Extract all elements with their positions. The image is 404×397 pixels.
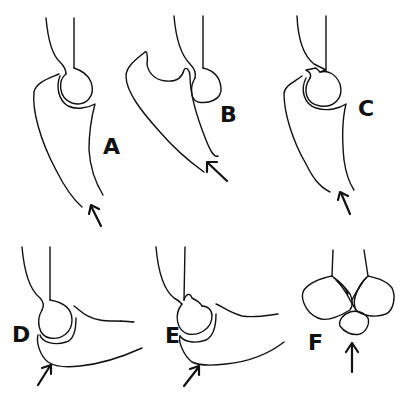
panel-b-label: B	[220, 102, 237, 127]
panel-e-ulna-coronoid-outline	[180, 304, 278, 342]
panel-d-arrow-icon	[38, 365, 51, 385]
panel-e-arrow-icon	[184, 366, 199, 386]
panel-b-ulna	[126, 52, 218, 172]
panel-a-humerus-shaft	[46, 18, 74, 74]
panel-e-label: E	[165, 323, 180, 348]
panel-f: F	[303, 250, 394, 372]
panel-c: C	[284, 16, 374, 214]
panel-a-arrow-icon	[89, 205, 101, 226]
panel-a: A	[34, 18, 120, 226]
panel-e-humeral-condyle	[177, 304, 212, 334]
panel-e-ulna	[180, 336, 284, 365]
panel-d-humerus-shaft	[22, 247, 50, 310]
panel-b-humerus-shaft	[174, 16, 203, 78]
panel-b: B	[126, 16, 237, 181]
panel-a-ulna	[34, 74, 103, 207]
panel-b-humeral-condyle	[192, 68, 221, 102]
panel-f-medial-fragment	[303, 276, 353, 319]
panel-a-label: A	[103, 134, 120, 159]
panel-d: D	[12, 247, 142, 385]
panel-f-humerus-shaft	[332, 250, 368, 276]
panel-f-avulsed-fragment	[340, 311, 369, 334]
panel-e-humerus-shaft	[156, 247, 185, 304]
panel-e-fracture-fragment	[184, 294, 202, 306]
panel-b-arrow-icon	[207, 162, 227, 181]
panel-d-label: D	[12, 322, 30, 347]
panel-e: E	[156, 247, 284, 386]
panel-c-arrow-icon	[338, 192, 350, 214]
panel-f-lateral-fragment	[354, 276, 394, 316]
panel-c-ulna	[284, 76, 354, 192]
panel-f-arrow-icon	[346, 343, 358, 372]
fracture-diagram: A B C D	[0, 0, 404, 397]
panel-c-label: C	[358, 96, 374, 121]
panel-c-humerus-shaft	[297, 16, 326, 70]
panel-c-fracture-fragment	[306, 68, 326, 78]
panel-d-ulna	[37, 335, 142, 367]
panel-f-label: F	[308, 330, 323, 355]
